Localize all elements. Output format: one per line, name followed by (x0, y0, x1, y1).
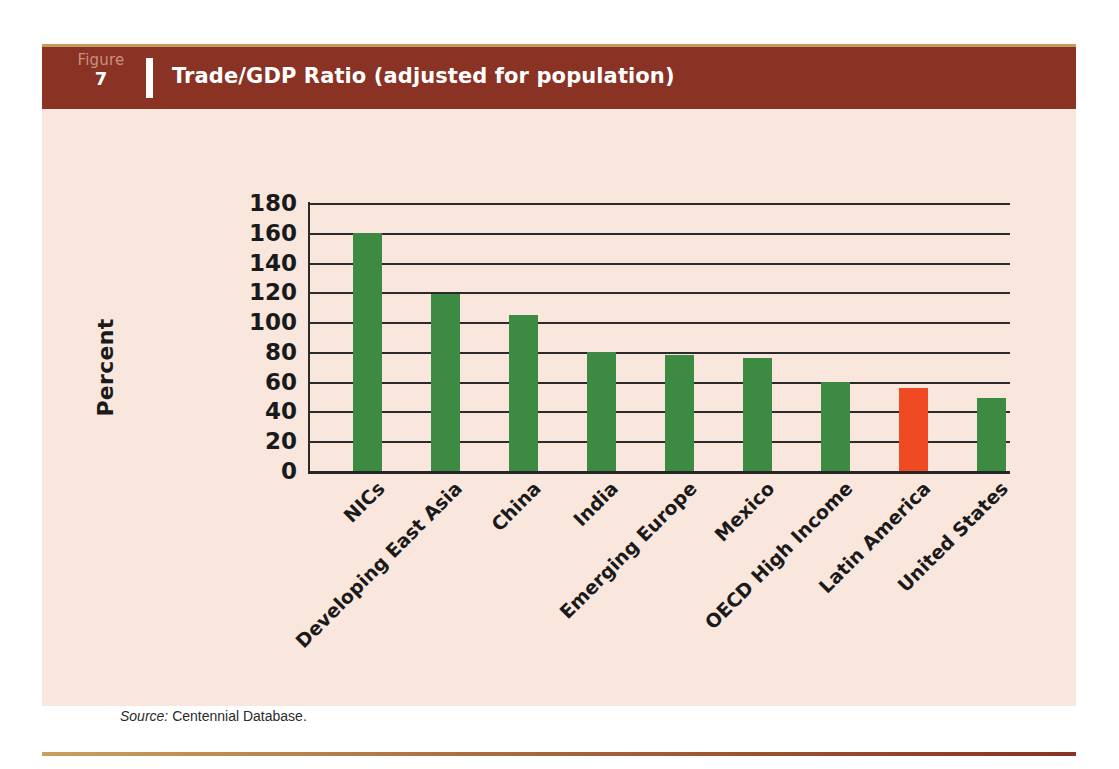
gridline-60 (308, 382, 1010, 384)
x-axis-label-mexico: Mexico (710, 477, 779, 546)
figure-page: Figure 7 Trade/GDP Ratio (adjusted for p… (0, 0, 1119, 769)
y-axis-title: Percent (93, 298, 118, 438)
y-axis-tick-40: 40 (192, 400, 297, 423)
figure-panel: Figure 7 Trade/GDP Ratio (adjusted for p… (42, 44, 1076, 706)
gridline-40 (308, 411, 1010, 413)
y-axis-tick-80: 80 (192, 340, 297, 363)
y-axis-tick-labels: 180160140120100806040200 (192, 202, 297, 473)
gridline-20 (308, 441, 1010, 443)
source-label: Source: (120, 708, 168, 724)
x-axis-label-nics: NICs (339, 477, 389, 527)
y-axis-tick-180: 180 (192, 192, 297, 215)
figure-title: Trade/GDP Ratio (adjusted for population… (172, 64, 675, 88)
figure-number: 7 (64, 70, 138, 89)
gridline-140 (308, 263, 1010, 265)
plot-gridlines (308, 202, 1010, 473)
gridline-0 (308, 471, 1010, 474)
figure-word-label: Figure (64, 53, 138, 69)
y-axis-tick-0: 0 (192, 460, 297, 483)
gridline-120 (308, 292, 1010, 294)
y-axis-tick-100: 100 (192, 311, 297, 334)
y-axis-tick-140: 140 (192, 251, 297, 274)
chart-area: Percent 180160140120100806040200 NICsDev… (42, 109, 1076, 706)
gridline-100 (308, 322, 1010, 324)
x-axis-label-india: India (569, 477, 622, 530)
x-axis-label-china: China (486, 477, 544, 535)
gridline-80 (308, 352, 1010, 354)
x-axis-label-developing-east-asia: Developing East Asia (292, 477, 467, 652)
figure-header: Figure 7 Trade/GDP Ratio (adjusted for p… (42, 47, 1076, 109)
y-axis-tick-120: 120 (192, 281, 297, 304)
header-divider (146, 58, 153, 98)
x-axis-tick-labels: NICsDeveloping East AsiaChinaIndiaEmergi… (308, 477, 1010, 657)
source-note: Source: Centennial Database. (120, 708, 307, 724)
y-axis-tick-20: 20 (192, 430, 297, 453)
y-axis-tick-60: 60 (192, 370, 297, 393)
x-axis-label-emerging-europe: Emerging Europe (555, 477, 701, 623)
gridline-160 (308, 233, 1010, 235)
bottom-rule (42, 752, 1076, 756)
source-text: Centennial Database. (168, 708, 307, 724)
gridline-180 (308, 203, 1010, 205)
y-axis-tick-160: 160 (192, 221, 297, 244)
x-axis-label-oecd-high-income: OECD High Income (700, 477, 856, 633)
figure-number-block: Figure 7 (64, 53, 138, 89)
y-axis-line (308, 202, 310, 473)
